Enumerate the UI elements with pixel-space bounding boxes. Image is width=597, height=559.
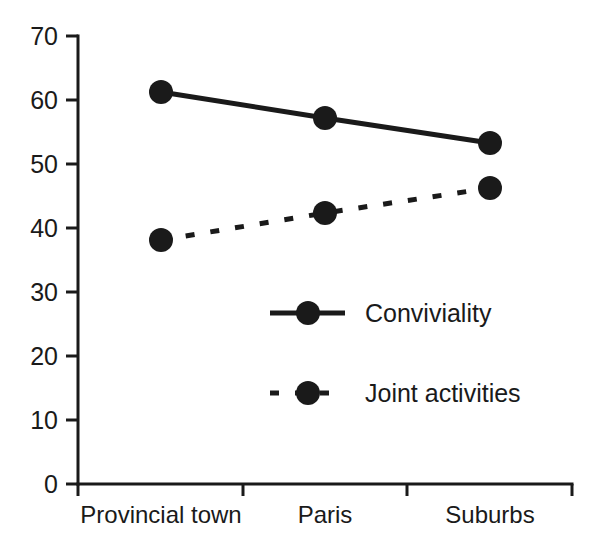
y-tick-label-10: 10 xyxy=(30,406,58,434)
y-tick-label-50: 50 xyxy=(30,150,58,178)
x-tick-label-provincial-town: Provincial town xyxy=(80,501,241,528)
legend-marker-conviviality xyxy=(296,301,320,325)
chart-legend: Conviviality Joint activities xyxy=(270,299,521,407)
x-axis: Provincial town Paris Suburbs xyxy=(78,484,572,528)
y-tick-label-0: 0 xyxy=(44,470,58,498)
y-tick-label-70: 70 xyxy=(30,22,58,50)
line-chart: 70 60 50 40 30 20 10 0 Provincial town P… xyxy=(0,0,597,559)
series-conviviality xyxy=(149,80,502,155)
data-point-conviviality-suburbs xyxy=(478,131,502,155)
y-tick-label-20: 20 xyxy=(30,342,58,370)
x-axis-tick-labels: Provincial town Paris Suburbs xyxy=(80,501,534,528)
legend-label-conviviality: Conviviality xyxy=(365,299,492,327)
data-point-joint-activities-suburbs xyxy=(478,176,502,200)
y-axis-tick-labels: 70 60 50 40 30 20 10 0 xyxy=(30,22,58,498)
x-tick-label-suburbs: Suburbs xyxy=(445,501,534,528)
x-tick-label-paris: Paris xyxy=(298,501,353,528)
y-tick-label-60: 60 xyxy=(30,86,58,114)
legend-marker-joint-activities xyxy=(296,381,320,405)
chart-canvas: 70 60 50 40 30 20 10 0 Provincial town P… xyxy=(0,0,597,559)
x-axis-ticks xyxy=(78,484,572,496)
legend-label-joint-activities: Joint activities xyxy=(365,379,521,407)
y-axis-ticks xyxy=(66,36,78,484)
series-joint-activities xyxy=(149,176,502,252)
data-point-conviviality-paris xyxy=(313,106,337,130)
data-point-conviviality-provincial-town xyxy=(149,80,173,104)
data-point-joint-activities-paris xyxy=(313,201,337,225)
y-tick-label-30: 30 xyxy=(30,278,58,306)
legend-entry-joint-activities: Joint activities xyxy=(270,379,521,407)
data-point-joint-activities-provincial-town xyxy=(149,228,173,252)
legend-entry-conviviality: Conviviality xyxy=(270,299,492,327)
y-axis: 70 60 50 40 30 20 10 0 xyxy=(30,22,78,498)
y-tick-label-40: 40 xyxy=(30,214,58,242)
